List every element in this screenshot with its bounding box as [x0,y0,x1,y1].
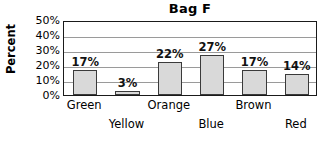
x-axis-category-labels: GreenYellowOrangeBlueBrownRed [63,96,317,141]
y-axis-tick-label: 20% [18,60,60,71]
y-axis-tick-label: 10% [18,75,60,86]
y-axis-tick-labels: 50% 40% 30% 20% 10% 0% [18,20,60,95]
y-axis-tick-label: 30% [18,45,60,56]
bar[interactable] [158,62,182,95]
y-axis-tick-label: 0% [18,90,60,101]
bar-value-label: 3% [99,76,155,90]
bar-slot: 22% [149,22,191,95]
x-axis-label: Blue [182,118,240,131]
plot-area: 17%3%22%27%17%14% [63,21,317,96]
x-axis-label: Green [55,99,113,112]
y-axis-title: Percent [4,14,18,84]
bar-value-label: 17% [57,55,113,69]
x-axis-label: Yellow [97,118,155,131]
x-axis-label: Brown [224,99,282,112]
bar-value-label: 27% [184,40,240,54]
bar-value-label: 14% [269,59,324,73]
bar[interactable] [285,74,309,95]
bar[interactable] [242,70,266,96]
y-axis-tick-label: 50% [18,15,60,26]
bar-slot: 14% [276,22,318,95]
x-axis-label: Orange [140,99,198,112]
x-axis-label: Red [267,118,324,131]
bar-chart: Bag F Percent 50% 40% 30% 20% 10% 0% 17%… [0,0,324,141]
bar[interactable] [115,91,139,96]
chart-title: Bag F [63,1,317,16]
y-axis-tick-label: 40% [18,30,60,41]
bar[interactable] [73,70,97,96]
bar[interactable] [200,55,224,96]
bars-layer: 17%3%22%27%17%14% [64,22,316,95]
